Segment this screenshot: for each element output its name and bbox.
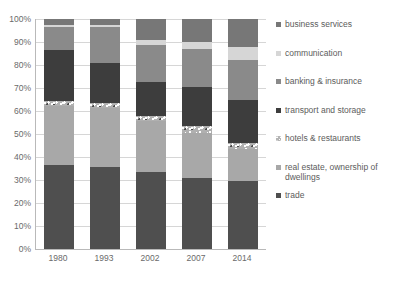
legend-label: real estate, ownership of dwellings [285, 162, 396, 183]
y-tick-label: 20% [0, 199, 31, 208]
bar-segment[interactable] [136, 121, 166, 172]
bar-segment[interactable] [44, 165, 74, 249]
bar-group[interactable] [44, 19, 74, 249]
bar-segment[interactable] [182, 19, 212, 42]
legend-item[interactable]: banking & insurance [276, 76, 396, 87]
legend-swatch-icon [276, 79, 281, 84]
bar-segment[interactable] [90, 103, 120, 108]
bar-segment[interactable] [228, 47, 258, 61]
stacked-bar-chart: 0%10%20%30%40%50%60%70%80%90%100% 198019… [0, 0, 398, 283]
bar-segment[interactable] [90, 19, 120, 25]
bar-segment[interactable] [44, 50, 74, 101]
bar-segment[interactable] [90, 27, 120, 63]
bar-segment[interactable] [44, 25, 74, 27]
legend-label: trade [285, 190, 304, 201]
bar-segment[interactable] [44, 27, 74, 50]
x-tick-label: 1993 [95, 254, 114, 263]
bar-segment[interactable] [136, 82, 166, 115]
bar-segment[interactable] [182, 87, 212, 126]
y-tick-label: 60% [0, 107, 31, 116]
bar-segment[interactable] [182, 133, 212, 178]
bar-segment[interactable] [182, 42, 212, 49]
bar-segment[interactable] [228, 149, 258, 181]
legend-label: hotels & restaurants [285, 133, 361, 144]
legend-swatch-icon [276, 136, 281, 141]
legend-label: communication [285, 48, 342, 59]
legend-item[interactable]: transport and storage [276, 105, 396, 116]
bar-segment[interactable] [136, 40, 166, 46]
bar-segment[interactable] [182, 49, 212, 87]
x-tick-label: 2014 [233, 254, 252, 263]
y-tick-label: 100% [0, 15, 31, 24]
bar-segment[interactable] [44, 101, 74, 107]
y-tick-label: 70% [0, 84, 31, 93]
y-tick-label: 40% [0, 153, 31, 162]
bar-segment[interactable] [182, 126, 212, 133]
x-tick-label: 1980 [49, 254, 68, 263]
bar-group[interactable] [90, 19, 120, 249]
x-axis: 19801993200220072014 [35, 254, 265, 270]
y-axis: 0%10%20%30%40%50%60%70%80%90%100% [0, 19, 31, 249]
legend-item[interactable]: communication [276, 48, 396, 59]
bar-segment[interactable] [136, 172, 166, 249]
bar-segment[interactable] [228, 181, 258, 249]
x-tick-label: 2007 [187, 254, 206, 263]
bar-segment[interactable] [90, 167, 120, 249]
y-tick-label: 90% [0, 38, 31, 47]
bar-segment[interactable] [136, 45, 166, 82]
bar-segment[interactable] [182, 178, 212, 249]
bar-segment[interactable] [228, 100, 258, 144]
y-tick-label: 10% [0, 222, 31, 231]
bar-segment[interactable] [44, 106, 74, 165]
bar-group[interactable] [136, 19, 166, 249]
legend-swatch-icon [276, 165, 281, 170]
legend-swatch-icon [276, 193, 281, 198]
legend-label: transport and storage [285, 105, 366, 116]
y-tick-label: 80% [0, 61, 31, 70]
legend-item[interactable]: real estate, ownership of dwellings [276, 162, 396, 183]
legend-swatch-icon [276, 51, 281, 56]
legend-label: business services [285, 19, 352, 30]
bar-segment[interactable] [228, 143, 258, 149]
bar-segment[interactable] [44, 19, 74, 25]
bar-segment[interactable] [136, 19, 166, 40]
legend-item[interactable]: hotels & restaurants [276, 133, 396, 144]
y-tick-label: 30% [0, 176, 31, 185]
bar-group[interactable] [182, 19, 212, 249]
y-tick-label: 0% [0, 245, 31, 254]
legend-item[interactable]: business services [276, 19, 396, 30]
plot-area [35, 19, 266, 250]
legend-label: banking & insurance [285, 76, 362, 87]
legend-item[interactable]: trade [276, 190, 396, 201]
legend-swatch-icon [276, 22, 281, 27]
x-tick-label: 2002 [141, 254, 160, 263]
bar-segment[interactable] [90, 108, 120, 168]
legend-swatch-icon [276, 108, 281, 113]
bar-group[interactable] [228, 19, 258, 249]
y-tick-label: 50% [0, 130, 31, 139]
bar-segment[interactable] [90, 25, 120, 27]
bar-segment[interactable] [90, 63, 120, 103]
bar-segment[interactable] [228, 19, 258, 47]
bar-segment[interactable] [136, 116, 166, 122]
bar-segment[interactable] [228, 60, 258, 99]
